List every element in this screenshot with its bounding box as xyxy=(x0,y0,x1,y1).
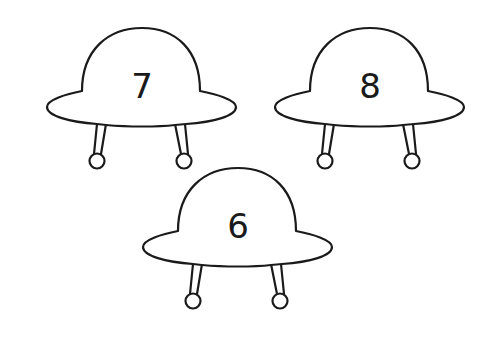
ufo-card: 6 xyxy=(143,168,332,309)
ufo-number: 6 xyxy=(227,206,249,246)
ufo-number: 7 xyxy=(131,66,153,106)
ufo-card: 7 xyxy=(47,28,236,169)
ufo-card: 8 xyxy=(275,28,464,169)
ufo-worksheet: 7 8 6 xyxy=(0,0,493,337)
ufo-number: 8 xyxy=(359,66,381,106)
